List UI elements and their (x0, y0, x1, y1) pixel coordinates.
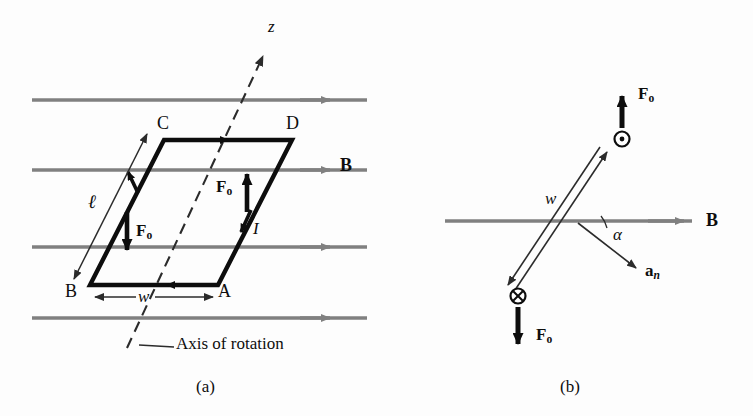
force-subscript: o (546, 333, 552, 346)
force-symbol: F (216, 177, 226, 196)
current-out-of-page-marker (615, 132, 630, 147)
corner-label-C: C (157, 114, 169, 132)
force-label-right-a: Fo (216, 178, 232, 197)
physics-figure: z C D B A ℓ w I Fo Fo B Axis of rotation… (0, 0, 753, 416)
panel-b-graphics (445, 96, 692, 344)
current-label-I: I (253, 220, 259, 237)
force-symbol: F (536, 325, 546, 344)
force-subscript: o (146, 229, 152, 242)
normal-symbol: a (645, 261, 654, 280)
length-label-ell: ℓ (88, 192, 96, 211)
axis-of-rotation-note: Axis of rotation (176, 335, 284, 352)
force-label-bottom-b: Fo (536, 326, 552, 345)
axis-callout-leader (139, 345, 174, 347)
force-label-left-a: Fo (136, 222, 152, 241)
corner-label-B: B (65, 282, 77, 300)
force-subscript: o (648, 92, 654, 105)
field-label-B-b: B (706, 211, 718, 229)
axis-label-z: z (268, 18, 275, 35)
width-label-w-a: w (138, 288, 149, 305)
field-label-B-a: B (340, 156, 352, 174)
normal-vector-arrow (578, 223, 636, 268)
current-arrow-left-BC (128, 172, 138, 193)
panel-a-graphics (0, 0, 753, 416)
normal-label-an: an (645, 262, 660, 281)
caption-b: (b) (560, 378, 580, 395)
width-label-w-b: w (545, 190, 556, 207)
force-symbol: F (638, 84, 648, 103)
length-dimension-arrow (74, 134, 147, 279)
force-subscript: o (226, 185, 232, 198)
force-symbol: F (136, 221, 146, 240)
caption-a: (a) (196, 378, 215, 395)
loop-plane-arrow-down (508, 147, 600, 285)
force-label-top-b: Fo (638, 85, 654, 104)
corner-label-A: A (218, 282, 231, 300)
normal-subscript: n (654, 269, 660, 282)
current-into-page-marker (511, 289, 526, 304)
angle-label-alpha: α (613, 226, 622, 243)
corner-label-D: D (286, 114, 299, 132)
